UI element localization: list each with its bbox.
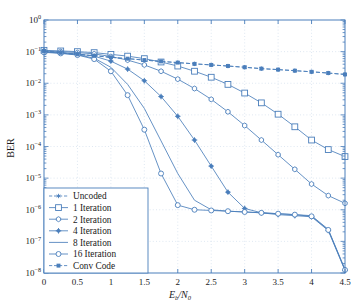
legend[interactable]: Uncoded1 Iteration2 Iteration4 Iteration… (44, 188, 148, 273)
data-marker (292, 124, 298, 130)
data-marker (209, 97, 213, 102)
data-marker (56, 217, 60, 222)
legend-label: Conv Code (73, 261, 115, 271)
x-tick-label: 2.5 (206, 277, 218, 287)
data-marker (325, 147, 331, 153)
data-marker (57, 264, 60, 267)
data-marker (275, 111, 281, 117)
data-marker (225, 209, 230, 214)
data-marker (159, 171, 164, 176)
data-marker (258, 100, 264, 106)
x-tick-label: 3.5 (272, 277, 284, 287)
legend-label: Uncoded (73, 191, 107, 201)
data-marker (160, 60, 163, 63)
data-marker (143, 59, 146, 62)
data-marker (209, 208, 214, 213)
legend-label: 8 Iteration (73, 238, 112, 248)
x-tick-label: 4 (309, 277, 314, 287)
data-marker (109, 56, 112, 59)
data-marker (125, 93, 130, 98)
data-marker (142, 62, 146, 67)
data-marker (309, 182, 313, 187)
data-marker (59, 51, 62, 54)
data-marker (126, 57, 129, 60)
x-tick-label: 3 (242, 277, 247, 287)
data-marker (242, 209, 247, 214)
ber-chart: 00.511.522.533.544.5 10010−110−210−310−4… (0, 0, 359, 307)
data-marker (192, 86, 196, 91)
x-tick-label: 2 (176, 277, 181, 287)
x-tick-label: 1 (109, 277, 114, 287)
data-marker (326, 227, 331, 232)
data-marker (192, 207, 197, 212)
data-marker (327, 72, 330, 75)
data-marker (309, 214, 314, 219)
data-marker (326, 193, 330, 198)
legend-label: 2 Iteration (73, 215, 112, 225)
data-marker (159, 69, 163, 74)
data-marker (292, 212, 297, 217)
data-marker (56, 205, 62, 211)
data-marker (259, 138, 263, 143)
data-marker (243, 123, 247, 128)
x-tick-label: 0 (42, 277, 47, 287)
data-marker (108, 69, 113, 74)
data-marker (193, 62, 196, 65)
data-marker (276, 152, 280, 157)
data-marker (260, 67, 263, 70)
y-axis-title: BER (5, 138, 16, 158)
x-tick-label: 1.5 (139, 277, 151, 287)
data-marker (192, 68, 198, 74)
data-marker (242, 90, 248, 96)
data-marker (259, 210, 264, 215)
data-marker (310, 70, 313, 73)
data-marker (176, 77, 180, 82)
data-marker (309, 137, 315, 143)
data-marker (208, 74, 214, 80)
data-marker (76, 53, 79, 56)
data-marker (176, 61, 179, 64)
data-marker (142, 127, 147, 132)
data-marker (243, 66, 246, 69)
data-marker (276, 211, 281, 216)
data-marker (56, 252, 61, 257)
legend-label: 4 Iteration (73, 226, 112, 236)
data-marker (293, 167, 297, 172)
legend-label: 1 Iteration (73, 203, 112, 213)
data-marker (93, 54, 96, 57)
x-tick-label: 4.5 (339, 277, 351, 287)
data-marker (225, 81, 231, 87)
x-axis-title-e: E (168, 289, 175, 300)
data-marker (226, 109, 230, 114)
data-marker (226, 65, 229, 68)
data-marker (277, 68, 280, 71)
data-marker (175, 203, 180, 208)
data-marker (293, 69, 296, 72)
x-tick-label: 0.5 (72, 277, 84, 287)
legend-label: 16 Iteration (73, 249, 116, 259)
data-marker (210, 63, 213, 66)
